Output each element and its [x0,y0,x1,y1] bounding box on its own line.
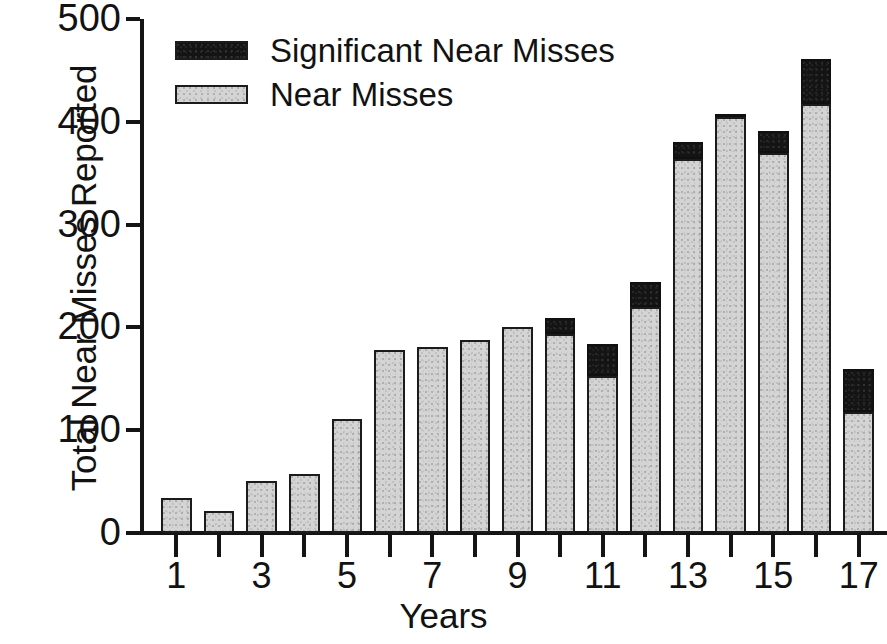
bar-segment-near-misses [630,307,661,533]
bar-segment-near-misses [374,350,405,533]
x-tick-1 [174,535,178,557]
y-tick-500 [126,17,140,21]
x-tick-label-1: 1 [141,556,211,596]
x-tick-17 [857,535,861,557]
y-tick-200 [126,325,140,329]
bar-year-5 [332,419,363,533]
legend-label: Near Misses [270,78,453,111]
x-tick-label-7: 7 [397,556,467,596]
chart-legend: Significant Near MissesNear Misses [175,28,615,116]
bar-segment-near-misses [460,340,491,533]
bar-segment-near-misses [801,104,832,533]
y-tick-100 [126,428,140,432]
bar-segment-near-misses [545,334,576,533]
legend-item: Near Misses [175,72,615,116]
bar-segment-near-misses [246,481,277,533]
legend-swatch-sig [175,41,248,60]
x-tick-2 [217,535,221,557]
x-tick-14 [729,535,733,557]
y-tick-label-0: 0 [0,513,121,551]
bar-segment-significant-near-misses [545,318,576,333]
bar-year-16 [801,59,832,533]
bar-year-3 [246,481,277,533]
bar-year-4 [289,474,320,533]
x-tick-label-11: 11 [568,556,638,596]
y-axis-title: Total Near Misses Reported [64,0,104,558]
bar-year-2 [204,511,235,533]
bar-segment-near-misses [289,474,320,533]
x-tick-12 [643,535,647,557]
x-tick-label-17: 17 [824,556,887,596]
bar-segment-near-misses [332,419,363,533]
y-tick-label-500: 500 [0,0,121,37]
bar-segment-near-misses [758,153,789,533]
x-tick-16 [814,535,818,557]
bar-segment-near-misses [502,327,533,533]
y-tick-400 [126,120,140,124]
x-tick-7 [430,535,434,557]
x-tick-label-13: 13 [653,556,723,596]
x-tick-11 [601,535,605,557]
bar-year-8 [460,340,491,533]
bar-segment-near-misses [715,117,746,533]
y-tick-label-300: 300 [0,205,121,243]
x-tick-3 [260,535,264,557]
bar-year-11 [587,344,618,533]
bar-segment-significant-near-misses [843,369,874,412]
x-tick-10 [558,535,562,557]
x-tick-15 [771,535,775,557]
bar-year-7 [417,347,448,533]
bar-segment-near-misses [843,412,874,533]
bar-year-9 [502,327,533,533]
bar-segment-near-misses [417,347,448,533]
y-tick-label-200: 200 [0,307,121,345]
bar-segment-near-misses [161,498,192,533]
bar-segment-significant-near-misses [630,282,661,307]
bar-segment-significant-near-misses [801,59,832,104]
x-tick-9 [516,535,520,557]
x-tick-5 [345,535,349,557]
x-tick-8 [473,535,477,557]
x-tick-label-15: 15 [738,556,808,596]
bar-segment-significant-near-misses [758,131,789,153]
x-tick-4 [302,535,306,557]
y-tick-300 [126,223,140,227]
bar-segment-near-misses [587,376,618,533]
bar-year-17 [843,369,874,533]
bar-year-10 [545,318,576,533]
bar-year-12 [630,282,661,533]
bar-year-6 [374,350,405,533]
legend-label: Significant Near Misses [270,34,615,67]
bar-year-15 [758,131,789,533]
bar-year-13 [673,142,704,533]
bar-segment-near-misses [673,159,704,533]
bar-segment-near-misses [204,511,235,533]
y-tick-0 [126,531,140,535]
y-tick-label-100: 100 [0,410,121,448]
x-tick-label-9: 9 [483,556,553,596]
y-axis-line [140,19,144,535]
legend-swatch-near [175,85,248,104]
x-tick-6 [388,535,392,557]
x-tick-label-5: 5 [312,556,382,596]
x-tick-13 [686,535,690,557]
y-tick-label-400: 400 [0,102,121,140]
bar-year-14 [715,114,746,533]
bar-year-1 [161,498,192,533]
x-axis-title: Years [0,596,887,636]
bar-chart: Total Near Misses Reported Years 0100200… [0,0,887,644]
x-tick-label-3: 3 [227,556,297,596]
bar-segment-significant-near-misses [673,142,704,158]
legend-item: Significant Near Misses [175,28,615,72]
bar-segment-significant-near-misses [587,344,618,376]
